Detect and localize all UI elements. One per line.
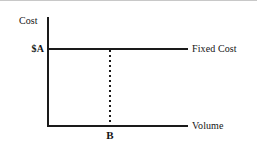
volume-b-dropline	[109, 50, 111, 126]
fixed-cost-series-label: Fixed Cost	[192, 43, 237, 54]
x-axis-line	[47, 125, 188, 127]
y-axis-title: Cost	[19, 15, 38, 26]
x-axis-title: Volume	[192, 120, 224, 131]
x-axis-tick-label-b: B	[96, 130, 124, 141]
top-edge-rule	[0, 0, 257, 1]
y-axis-tick-label-a: $A	[0, 43, 44, 54]
y-axis-line	[47, 17, 49, 127]
fixed-cost-chart: Cost $A Fixed Cost Volume B	[0, 0, 257, 148]
fixed-cost-series-line	[47, 48, 188, 50]
